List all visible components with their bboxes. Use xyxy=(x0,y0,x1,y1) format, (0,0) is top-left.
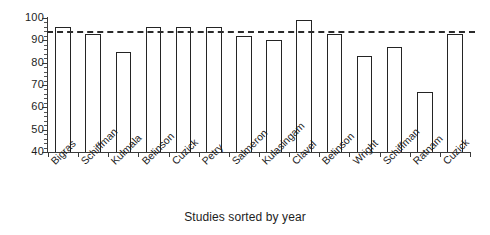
y-tick-label: 60 xyxy=(4,101,44,112)
x-tick-mark xyxy=(470,152,471,157)
y-tick-label: 80 xyxy=(4,57,44,68)
y-tick-label: 70 xyxy=(4,79,44,90)
bar xyxy=(387,47,403,152)
bar xyxy=(327,34,343,152)
bar xyxy=(85,34,101,152)
bar xyxy=(176,27,192,152)
bar-chart: 405060708090100 BigrasSchiffmanKulmalaBe… xyxy=(0,0,490,235)
bar xyxy=(447,34,463,152)
x-axis-title: Studies sorted by year xyxy=(0,210,490,224)
y-tick-label: 100 xyxy=(4,12,44,23)
bar xyxy=(146,27,162,152)
y-axis-labels: 405060708090100 xyxy=(0,0,44,235)
bar xyxy=(206,27,222,152)
y-tick-label: 90 xyxy=(4,34,44,45)
bar xyxy=(55,27,71,152)
bar xyxy=(236,36,252,152)
y-tick-label: 40 xyxy=(4,146,44,157)
y-tick-label: 50 xyxy=(4,124,44,135)
x-tick-mark xyxy=(349,152,350,157)
x-tick-mark xyxy=(138,152,139,157)
reference-line xyxy=(47,31,475,33)
